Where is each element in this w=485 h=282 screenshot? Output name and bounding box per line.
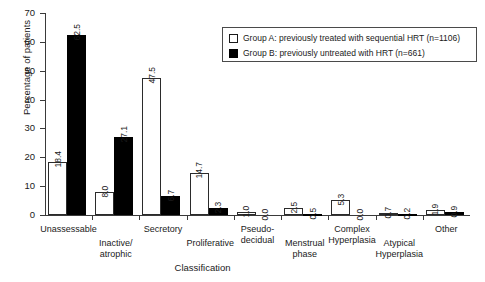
x-axis-tick <box>187 215 188 220</box>
bar-value-label: 1.0 <box>242 206 251 218</box>
y-axis-tick-label: 40 <box>7 95 35 105</box>
y-axis-tick-label: 70 <box>7 8 35 18</box>
bar-value-label: 27.1 <box>119 126 128 143</box>
bar-value-label: 2.5 <box>289 201 298 213</box>
y-axis-tick <box>40 215 45 216</box>
bar-value-label: 0.2 <box>403 208 412 220</box>
bar-value-label: 5.3 <box>336 193 345 205</box>
y-axis-tick-label: 20 <box>7 152 35 162</box>
bar-value-label: 0.5 <box>308 207 317 219</box>
bar-chart: Percentage of patients Classification 01… <box>0 0 485 282</box>
y-axis-tick-label: 0 <box>7 210 35 220</box>
category-label: Inactive/ atrophic <box>76 238 156 259</box>
category-label: Atypical Hyperplasia <box>359 238 439 259</box>
legend-item: Group A: previously treated with sequent… <box>229 32 470 45</box>
x-axis-tick <box>423 215 424 220</box>
y-axis-tick <box>40 128 45 129</box>
bar <box>190 173 209 215</box>
bar <box>142 78 161 215</box>
x-axis-tick <box>92 215 93 220</box>
y-axis-tick <box>40 157 45 158</box>
bar-value-label: 0.0 <box>261 209 270 221</box>
bar-value-label: 1.9 <box>431 203 440 215</box>
bar <box>114 137 133 215</box>
y-axis-tick <box>40 71 45 72</box>
x-axis-title: Classification <box>0 262 485 273</box>
category-label: Unassessable <box>29 224 109 235</box>
bar-value-label: 14.7 <box>195 162 204 179</box>
y-axis-tick <box>40 100 45 101</box>
bar-value-label: 2.3 <box>214 202 223 214</box>
y-axis-tick <box>40 186 45 187</box>
bar-value-label: 0.0 <box>355 209 364 221</box>
bar-value-label: 62.5 <box>72 24 81 41</box>
x-axis-tick <box>281 215 282 220</box>
y-axis-tick <box>40 13 45 14</box>
y-axis-tick-label: 60 <box>7 37 35 47</box>
legend-label: Group A: previously treated with sequent… <box>243 34 460 43</box>
legend-label: Group B: previously untreated with HRT (… <box>243 49 425 58</box>
bar-value-label: 6.7 <box>166 189 175 201</box>
open-square-icon <box>229 34 238 43</box>
x-axis-tick <box>234 215 235 220</box>
bar-value-label: 8.0 <box>100 186 109 198</box>
y-axis-tick-label: 30 <box>7 123 35 133</box>
category-label: Secretory <box>123 224 203 235</box>
bar <box>67 35 86 215</box>
bar <box>48 162 67 215</box>
filled-square-icon <box>229 49 238 58</box>
y-axis-line <box>45 13 46 215</box>
category-label: Other <box>406 224 485 235</box>
legend-item: Group B: previously untreated with HRT (… <box>229 47 470 60</box>
x-axis-tick <box>328 215 329 220</box>
x-axis-tick <box>139 215 140 220</box>
y-axis-tick-label: 50 <box>7 66 35 76</box>
bar-value-label: 0.9 <box>450 206 459 218</box>
bar-value-label: 0.7 <box>384 207 393 219</box>
x-axis-title-text: Classification <box>175 262 231 273</box>
y-axis-tick-label: 10 <box>7 181 35 191</box>
x-axis-tick <box>376 215 377 220</box>
bar-value-label: 47.5 <box>147 67 156 84</box>
legend: Group A: previously treated with sequent… <box>222 27 477 62</box>
bar-value-label: 18.4 <box>53 151 62 168</box>
y-axis-tick <box>40 42 45 43</box>
